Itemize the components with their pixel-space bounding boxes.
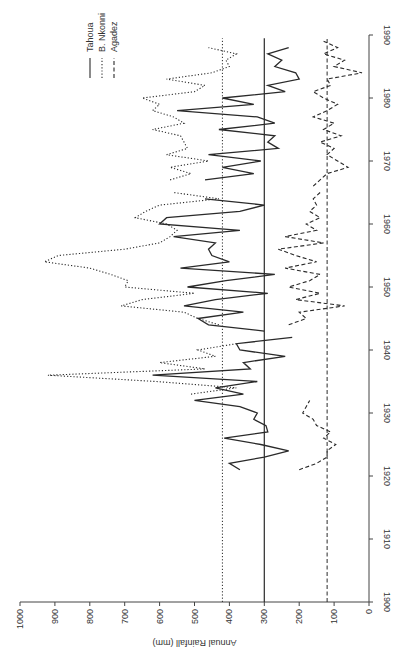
year-tick-label: 1970 [382,151,392,171]
rainfall-tick-label: 300 [259,609,269,624]
legend: TahouaB. NkonniAgadez [85,13,119,78]
rainfall-tick-label: 900 [50,609,60,624]
rainfall-chart: 01002003004005006007008009001000Annual R… [0,0,402,655]
rainfall-tick-label: 800 [85,609,95,624]
series-agadez [278,193,344,325]
rainfall-tick-label: 100 [329,609,339,624]
series-b-nkonni [44,193,219,325]
year-tick-label: 1900 [382,592,392,612]
year-tick-label: 1930 [382,403,392,423]
rainfall-tick-label: 1000 [15,609,25,629]
axes: 01002003004005006007008009001000Annual R… [15,25,392,648]
legend-label: Tahoua [85,22,95,52]
year-tick-label: 1980 [382,88,392,108]
rainfall-tick-label: 700 [120,609,130,624]
series-tahoua [177,48,299,180]
legend-label: Agadez [109,21,119,52]
rainfall-tick-label: 0 [364,609,374,614]
series-tahoua [160,199,275,331]
legend-label: B. Nkonni [97,13,107,52]
year-tick-label: 1920 [382,466,392,486]
year-tick-label: 1960 [382,214,392,234]
rainfall-tick-label: 200 [294,609,304,624]
series-lines [44,41,362,469]
series-agadez [299,400,336,469]
year-tick-label: 1940 [382,340,392,360]
rainfall-tick-label: 500 [190,609,200,624]
year-tick-label: 1910 [382,529,392,549]
series-agadez [313,41,362,186]
year-tick-label: 1950 [382,277,392,297]
rainfall-tick-label: 400 [224,609,234,624]
rainfall-axis-title: Annual Rainfall (mm) [152,638,236,648]
rainfall-tick-label: 600 [155,609,165,624]
year-tick-label: 1990 [382,25,392,45]
series-b-nkonni [48,344,237,394]
